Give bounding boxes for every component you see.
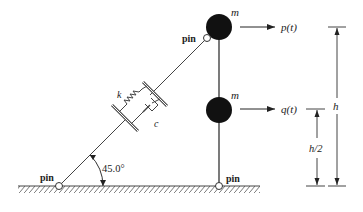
force-q-label: q(t) [281, 103, 297, 116]
top-mass-label: m [231, 6, 239, 18]
inclined-strut [59, 38, 207, 186]
angle-label: 45.0° [102, 163, 125, 174]
spring-icon [119, 86, 147, 112]
pin-ground-rod-label: pin [226, 173, 240, 184]
pin-top-label: pin [182, 33, 196, 44]
dimension-h-label: h [333, 100, 339, 112]
ground [18, 186, 260, 193]
dimension-h-half-label: h/2 [309, 143, 323, 154]
pin-top-icon [204, 35, 211, 42]
spring-label: k [117, 89, 122, 100]
middle-mass-label: m [231, 89, 239, 101]
force-p-label: p(t) [280, 21, 297, 34]
pin-ground-rod-icon [216, 183, 223, 190]
damper-label: c [154, 118, 159, 129]
pin-ground-left-label: pin [40, 172, 54, 183]
middle-mass [206, 97, 232, 123]
pin-ground-left-icon [56, 183, 63, 190]
mechanical-diagram: m m p(t) q(t) k c pin pin pin 45.0° h h/… [0, 0, 363, 212]
